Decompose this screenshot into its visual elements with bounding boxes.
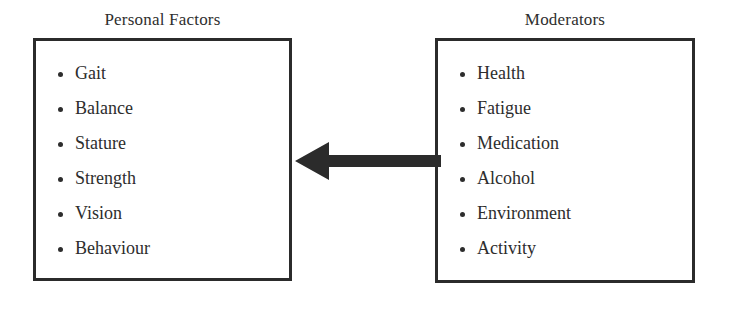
list-item: Balance	[58, 91, 150, 126]
list-item: Stature	[58, 126, 150, 161]
personal-factors-list: Gait Balance Stature Strength Vision Beh…	[58, 56, 150, 266]
list-item-label: Stature	[75, 133, 126, 153]
diagram-canvas: Personal Factors Gait Balance Stature St…	[0, 0, 729, 309]
arrow-left-icon	[293, 138, 441, 184]
list-item: Alcohol	[460, 161, 571, 196]
bullet-icon	[58, 247, 63, 252]
list-item: Behaviour	[58, 231, 150, 266]
list-item-label: Medication	[477, 133, 559, 153]
list-item-label: Gait	[75, 63, 106, 83]
bullet-icon	[58, 107, 63, 112]
list-item-label: Balance	[75, 98, 133, 118]
bullet-icon	[58, 72, 63, 77]
list-item-label: Strength	[75, 168, 136, 188]
bullet-icon	[460, 72, 465, 77]
list-item-label: Vision	[75, 203, 122, 223]
list-item: Strength	[58, 161, 150, 196]
moderators-list: Health Fatigue Medication Alcohol Enviro…	[460, 56, 571, 266]
bullet-icon	[460, 247, 465, 252]
bullet-icon	[460, 212, 465, 217]
list-item: Activity	[460, 231, 571, 266]
list-item: Vision	[58, 196, 150, 231]
list-item: Fatigue	[460, 91, 571, 126]
bullet-icon	[460, 177, 465, 182]
list-item: Gait	[58, 56, 150, 91]
bullet-icon	[460, 107, 465, 112]
list-item: Health	[460, 56, 571, 91]
list-item-label: Health	[477, 63, 525, 83]
list-item-label: Environment	[477, 203, 571, 223]
bullet-icon	[58, 177, 63, 182]
bullet-icon	[460, 142, 465, 147]
list-item-label: Behaviour	[75, 238, 150, 258]
bullet-icon	[58, 142, 63, 147]
list-item: Environment	[460, 196, 571, 231]
list-item: Medication	[460, 126, 571, 161]
personal-factors-title: Personal Factors	[33, 10, 292, 30]
list-item-label: Alcohol	[477, 168, 535, 188]
bullet-icon	[58, 212, 63, 217]
list-item-label: Activity	[477, 238, 536, 258]
moderators-title: Moderators	[435, 10, 695, 30]
list-item-label: Fatigue	[477, 98, 531, 118]
